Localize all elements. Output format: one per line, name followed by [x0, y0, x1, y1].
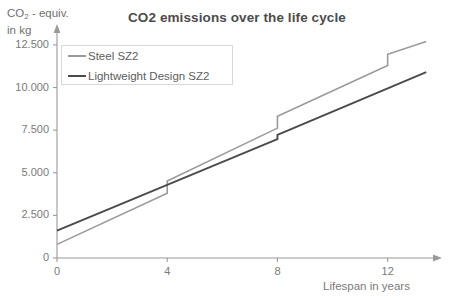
y-tick-label: 10.000	[0, 81, 49, 93]
chart-container: CO2 - equiv. in kg CO2 emissions over th…	[0, 0, 449, 302]
x-tick-label: 4	[147, 265, 187, 277]
y-tick-label: 5.000	[0, 166, 49, 178]
x-tick-label: 8	[257, 265, 297, 277]
x-tick-label: 12	[368, 265, 408, 277]
series-line-lightweight	[57, 72, 426, 231]
legend-swatch-steel	[68, 55, 86, 57]
x-tick-label: 0	[37, 265, 77, 277]
legend-item-lightweight: Lightweight Design SZ2	[62, 66, 232, 86]
x-axis-title: Lifespan in years	[323, 280, 410, 292]
legend-item-steel: Steel SZ2	[62, 46, 232, 66]
y-tick-label: 0	[0, 251, 49, 263]
y-tick-label: 2.500	[0, 208, 49, 220]
y-tick-label: 7.500	[0, 123, 49, 135]
legend-label-steel: Steel SZ2	[88, 50, 139, 62]
y-tick-label: 12.500	[0, 38, 49, 50]
legend-label-lightweight: Lightweight Design SZ2	[88, 70, 209, 82]
chart-legend: Steel SZ2 Lightweight Design SZ2	[61, 45, 233, 85]
x-axis-arrow-icon	[433, 255, 442, 262]
legend-swatch-lightweight	[68, 75, 86, 77]
y-axis-arrow-icon	[54, 24, 61, 33]
